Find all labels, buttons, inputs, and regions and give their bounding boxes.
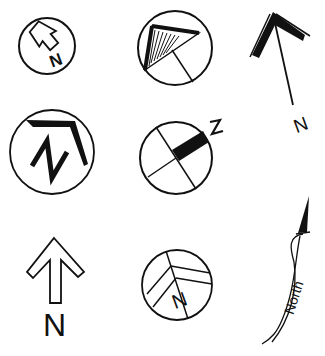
north-arrow-curved-text-icon: North	[262, 196, 310, 344]
north-arrow-chevron-circle-icon: N	[142, 250, 212, 320]
north-arrow-corner-n-icon	[10, 110, 94, 194]
north-arrow-outline-icon: N	[27, 238, 84, 343]
north-arrow-house-icon: N	[19, 17, 75, 74]
symbol-label: North	[281, 279, 307, 317]
north-arrow-sheet: N N	[0, 0, 325, 356]
north-arrow-chevron-line-icon: N	[250, 12, 311, 137]
symbol-label: N	[169, 287, 190, 313]
north-arrow-black-bar-icon	[140, 120, 223, 194]
symbol-label: N	[43, 307, 66, 343]
symbol-label: N	[47, 49, 65, 71]
symbol-label: N	[291, 112, 311, 136]
north-arrow-hatched-triangle-icon	[138, 11, 212, 85]
